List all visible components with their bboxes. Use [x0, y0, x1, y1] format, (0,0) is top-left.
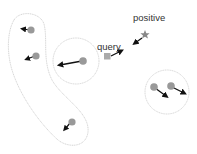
diagram-svg — [0, 0, 197, 154]
point-4 — [60, 57, 87, 65]
point-5 — [150, 83, 166, 96]
star-icon — [140, 30, 149, 39]
positive-label: positive — [133, 13, 165, 23]
point-1 — [23, 26, 35, 33]
point-2 — [27, 52, 40, 59]
query-label: query — [97, 42, 121, 52]
query-marker — [104, 51, 121, 60]
positive-marker — [135, 30, 150, 43]
single-point-cluster-boundary — [53, 38, 99, 84]
point-3 — [65, 118, 76, 129]
embedding-diagram: positive query — [0, 0, 197, 154]
elongated-cluster-boundary — [8, 14, 88, 146]
point-6 — [167, 82, 184, 93]
